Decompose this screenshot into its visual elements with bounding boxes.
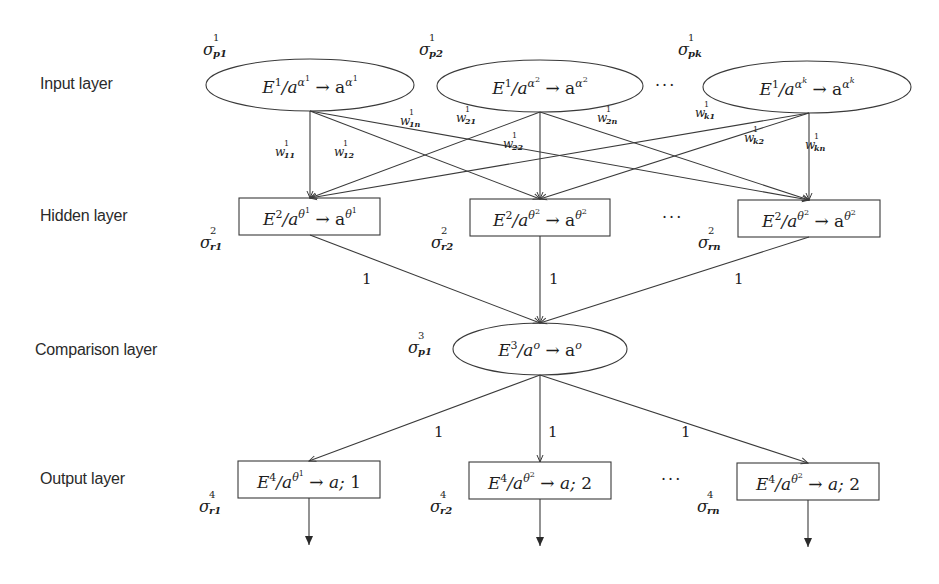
input-node-1-sigma: σ1p1: [203, 40, 214, 59]
weight-w2n: w12n: [597, 111, 607, 125]
input-node-k-label: E1/aαk → aαk: [759, 76, 854, 99]
hidden-node-n-label: E2/aθ2 → aθ2: [762, 208, 856, 231]
hidden-node-1-sigma: σ2r1: [200, 233, 211, 252]
hidden-node-n-sigma: σ2rn: [698, 233, 709, 252]
weight-w21: w121: [456, 111, 466, 125]
input-ellipsis: ···: [655, 76, 676, 95]
edge-weight-c-on: 1: [681, 423, 691, 441]
weight-w1n: w11n: [400, 114, 410, 128]
output-node-n-label: E4/aθ2 → a; 2: [756, 471, 860, 494]
comparison-node-label: E3/ao → ao: [498, 339, 582, 360]
weight-w12: w112: [334, 145, 344, 159]
layer-label-comparison: Comparison layer: [35, 341, 157, 359]
hidden-node-2-label: E2/aθ2 → aθ2: [493, 207, 587, 230]
output-node-n-sigma: σ4rn: [697, 497, 708, 516]
output-node-2-label: E4/aθ2 → a; 2: [488, 470, 592, 493]
edge-weight-h2-c: 1: [549, 270, 559, 288]
network-diagram: Input layer Hidden layer Comparison laye…: [0, 0, 939, 584]
comparison-node-sigma: σ3p1: [408, 338, 419, 357]
input-node-k-sigma: σ1pk: [678, 40, 689, 59]
edge-weight-c-o2: 1: [548, 423, 558, 441]
weight-wk2: w1k2: [744, 131, 754, 145]
layer-label-output: Output layer: [40, 470, 125, 488]
edge-weight-hn-c: 1: [734, 270, 744, 288]
weight-wkn: w1kn: [805, 138, 815, 152]
input-node-1-label: E1/aα1 → aα1: [262, 74, 358, 97]
output-node-2-sigma: σ4r2: [430, 497, 441, 516]
weight-w11: w111: [275, 145, 285, 159]
layer-label-hidden: Hidden layer: [40, 207, 127, 225]
hidden-ellipsis: ···: [662, 208, 683, 227]
edge-weight-h1-c: 1: [362, 270, 372, 288]
edge-weight-c-o1: 1: [434, 423, 444, 441]
weight-w22: w122: [503, 137, 513, 151]
input-node-2-sigma: σ1p2: [419, 40, 430, 59]
output-node-1-sigma: σ4r1: [199, 497, 210, 516]
output-node-1-label: E4/aθ1 → a; 1: [257, 469, 361, 492]
input-node-2-label: E1/aα2 → aα2: [492, 75, 588, 98]
output-ellipsis: ···: [661, 470, 682, 489]
weight-wk1: w1k1: [695, 106, 705, 120]
hidden-node-2-sigma: σ2r2: [431, 233, 442, 252]
hidden-node-1-label: E2/aθ1 → aθ1: [263, 206, 357, 229]
layer-label-input: Input layer: [40, 75, 113, 93]
